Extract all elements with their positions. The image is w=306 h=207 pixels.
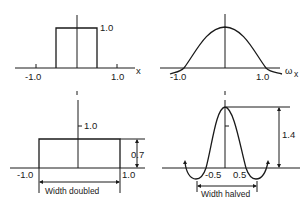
sinc-curve <box>170 27 282 74</box>
tick-neg-label: -0.5 <box>205 169 221 180</box>
curve-end-arrow-left <box>183 160 187 164</box>
arrowhead-up <box>277 107 281 111</box>
height-dim-label: 1.4 <box>282 129 295 140</box>
tick-pos-label: 0.5 <box>233 169 246 180</box>
axis-label-x: x <box>136 65 141 76</box>
tick-pos-label: 1.0 <box>256 71 269 82</box>
tick-neg-label: -1.0 <box>17 169 33 180</box>
axis-label-omega: ω <box>285 65 293 76</box>
curve-end-arrow-right <box>266 160 270 164</box>
width-caption: Width halved <box>201 189 250 199</box>
panel-bottom-right: 1.4 -0.5 0.5 Width halved <box>162 100 300 199</box>
panel-top-right: -1.0 1.0 ω x <box>160 14 299 82</box>
arrowhead-right <box>253 184 257 188</box>
arrowhead-right <box>116 180 120 184</box>
panel-bottom-left: 1.0 0.7 -1.0 1.0 Width doubled <box>10 100 145 196</box>
arrowhead-down <box>135 164 139 168</box>
tick-neg-label: -1.0 <box>170 71 186 82</box>
height-label: 1.0 <box>100 22 113 33</box>
tick-pos-label: 1.0 <box>122 169 135 180</box>
diagram-canvas: 1.0 -1.0 1.0 x -1.0 1.0 ω x 1.0 0.7 -1.0… <box>0 0 306 207</box>
tick-neg-label: -1.0 <box>25 71 41 82</box>
height-tick-label: 1.0 <box>84 120 97 131</box>
arrowhead-up <box>135 139 139 143</box>
height-dim-label: 0.7 <box>131 149 144 160</box>
arrowhead-left <box>39 180 43 184</box>
axis-label-subscript: x <box>294 69 299 79</box>
panel-top-left: 1.0 -1.0 1.0 x <box>15 15 141 82</box>
arrowhead-down <box>277 164 281 168</box>
width-caption: Width doubled <box>45 186 100 196</box>
arrowhead-left <box>197 184 201 188</box>
tick-pos-label: 1.0 <box>111 71 124 82</box>
rect-pulse-wide <box>39 139 120 168</box>
